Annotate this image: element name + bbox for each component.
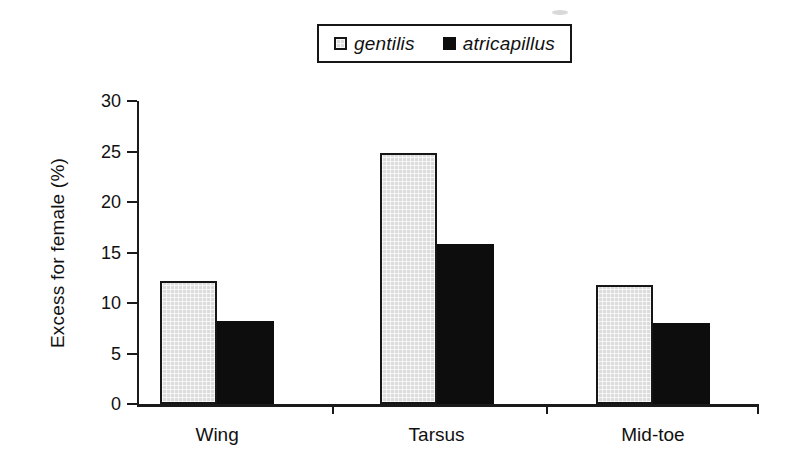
x-tick-1 — [546, 404, 548, 414]
x-tick-2 — [757, 404, 759, 414]
legend-item-atricapillus: atricapillus — [443, 33, 555, 55]
bar-atricapillus-mid-toe — [653, 323, 710, 404]
bar-atricapillus-wing — [217, 321, 274, 404]
y-tick-0 — [127, 403, 137, 405]
y-tick-25 — [127, 151, 137, 153]
x-category-label-wing: Wing — [147, 424, 287, 446]
legend-swatch-gentilis-icon — [334, 37, 347, 50]
y-tick-20 — [127, 201, 137, 203]
y-tick-30 — [127, 100, 137, 102]
chart-canvas: gentilis atricapillus Excess for female … — [0, 0, 796, 468]
y-tick-10 — [127, 302, 137, 304]
x-category-label-mid-toe: Mid-toe — [583, 424, 723, 446]
y-tick-label-20: 20 — [81, 192, 121, 212]
plot-area: 051015202530WingTarsusMid-toe — [137, 101, 759, 407]
bar-atricapillus-tarsus — [437, 244, 494, 404]
x-tick-0 — [332, 404, 334, 414]
y-tick-5 — [127, 353, 137, 355]
legend-label-atricapillus: atricapillus — [463, 33, 555, 55]
legend-item-gentilis: gentilis — [334, 33, 415, 55]
y-tick-label-5: 5 — [81, 344, 121, 364]
legend-swatch-atricapillus-icon — [443, 37, 456, 50]
y-tick-15 — [127, 252, 137, 254]
y-tick-label-0: 0 — [81, 394, 121, 414]
y-tick-label-10: 10 — [81, 293, 121, 313]
bar-gentilis-wing — [160, 281, 217, 404]
y-tick-label-30: 30 — [81, 91, 121, 111]
y-tick-label-15: 15 — [81, 243, 121, 263]
scan-artifact-smudge — [552, 10, 568, 15]
legend: gentilis atricapillus — [317, 24, 572, 63]
bar-gentilis-tarsus — [380, 153, 437, 404]
legend-label-gentilis: gentilis — [354, 33, 415, 55]
y-axis-title: Excess for female (%) — [47, 158, 69, 348]
y-tick-label-25: 25 — [81, 142, 121, 162]
bar-gentilis-mid-toe — [596, 285, 653, 404]
x-category-label-tarsus: Tarsus — [367, 424, 507, 446]
